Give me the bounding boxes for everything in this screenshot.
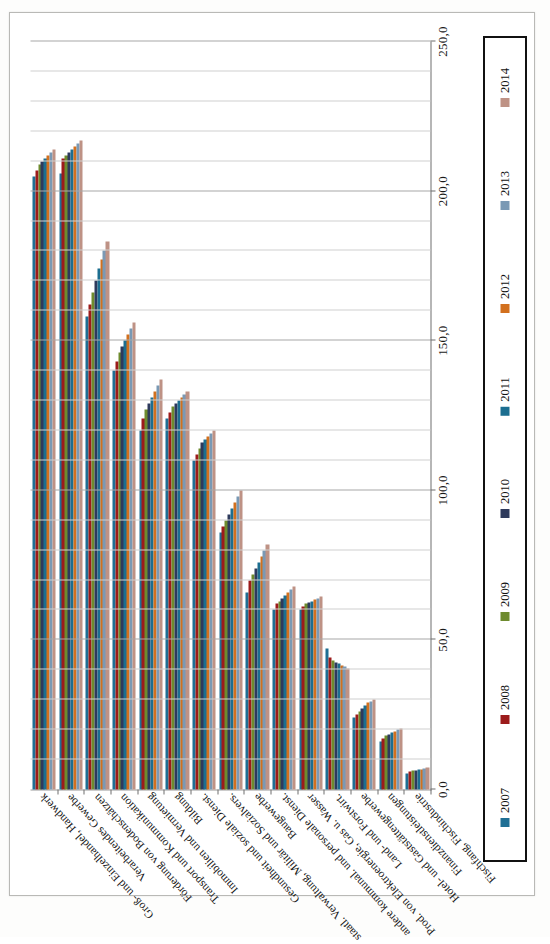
gridline: [31, 669, 431, 670]
bar-group: andere kommunal. und personale Dienst.: [271, 42, 298, 790]
gridline: [31, 639, 431, 640]
bar-group: Finanzdienstleistungen: [377, 42, 404, 790]
bar-group: staatl. Verwaltung, Militär und Sozialve…: [217, 42, 244, 790]
y-axis-tick: [324, 790, 325, 795]
legend-item-2010[interactable]: 2010: [498, 479, 513, 518]
gridline: [31, 220, 431, 221]
legend-item-2008[interactable]: 2008: [498, 685, 513, 724]
bar-group: Baugewerbe: [244, 42, 271, 790]
x-axis-tick-label: 150,0: [435, 326, 451, 356]
bar-2014: [132, 323, 135, 790]
gridline: [31, 489, 431, 490]
legend-item-2014[interactable]: 2014: [498, 68, 513, 107]
gridline: [31, 609, 431, 610]
bar-group: Land- und Forstwirt.: [324, 42, 351, 790]
legend-item-2012[interactable]: 2012: [498, 274, 513, 313]
gridline: [31, 429, 431, 430]
bar-group: Bildung: [164, 42, 191, 790]
legend-label: 2013: [498, 171, 513, 196]
y-axis-tick: [190, 790, 191, 795]
bar-2014: [186, 392, 189, 790]
gridline: [31, 699, 431, 700]
bar-rows: Groß- und Einzelhandel, HandwerkVerarbei…: [31, 42, 431, 790]
gridline: [31, 729, 431, 730]
x-axis-tick-label: 100,0: [435, 475, 451, 505]
x-axis-tick-label: 200,0: [435, 176, 451, 206]
bar-2014: [106, 242, 109, 790]
legend-swatch-icon: [501, 201, 510, 210]
legend-label: 2012: [498, 274, 513, 299]
gridline: [31, 759, 431, 760]
gridline: [31, 459, 431, 460]
bar-group: Förderung von Bodenschätzen: [84, 42, 111, 790]
legend-label: 2014: [498, 68, 513, 93]
bar-group: Fischfang, Fischindustrie: [404, 42, 431, 790]
y-axis-tick: [350, 790, 351, 795]
gridline: [31, 400, 431, 401]
bar-2014: [239, 490, 242, 789]
y-axis-tick: [430, 790, 431, 795]
gridline: [31, 100, 431, 101]
legend-label: 2009: [498, 582, 513, 607]
gridline: [31, 579, 431, 580]
x-axis-tick-label: 250,0: [435, 26, 451, 56]
gridline: [31, 280, 431, 281]
y-axis-tick: [217, 790, 218, 795]
bar-2014: [319, 597, 322, 790]
legend-swatch-icon: [501, 612, 510, 621]
gridline: [31, 190, 431, 191]
gridline: [31, 70, 431, 71]
legend-swatch-icon: [501, 304, 510, 313]
bar-chart: Groß- und Einzelhandel, HandwerkVerarbei…: [23, 29, 528, 909]
legend-label: 2011: [498, 377, 513, 402]
legend-swatch-icon: [501, 715, 510, 724]
bar-group: Gesundheit und soziale Dienst.: [191, 42, 218, 790]
bar-2014: [372, 700, 375, 790]
bar-2014: [79, 140, 82, 789]
bar-group: Verarbeitendes Gewerbe: [57, 42, 84, 790]
gridline: [31, 340, 431, 341]
bar-2014: [212, 430, 215, 789]
legend-label: 2008: [498, 685, 513, 710]
legend-item-2013[interactable]: 2013: [498, 171, 513, 210]
y-axis-tick: [270, 790, 271, 795]
gridline: [31, 250, 431, 251]
gridline: [31, 370, 431, 371]
legend-label: 2010: [498, 479, 513, 504]
legend-items: 20072008200920102011201220132014: [485, 38, 525, 860]
gridline: [31, 549, 431, 550]
legend-swatch-icon: [501, 98, 510, 107]
gridline: [31, 160, 431, 161]
gridline: [31, 41, 431, 42]
bar-2014: [266, 544, 269, 789]
bar-2014: [426, 768, 429, 790]
legend-swatch-icon: [501, 818, 510, 827]
y-axis-tick: [377, 790, 378, 795]
y-axis-tick: [137, 790, 138, 795]
bar-group: Transport und Kommunikation: [111, 42, 138, 790]
legend-label: 2007: [498, 788, 513, 813]
y-axis-tick: [297, 790, 298, 795]
y-axis-tick: [110, 790, 111, 795]
gridline: [31, 130, 431, 131]
chart-legend: 20072008200920102011201220132014: [483, 36, 527, 862]
y-axis-tick: [164, 790, 165, 795]
legend-item-2009[interactable]: 2009: [498, 582, 513, 621]
x-axis-tick-label: 50,0: [435, 628, 451, 652]
legend-item-2011[interactable]: 2011: [498, 377, 513, 416]
bar-group: Groß- und Einzelhandel, Handwerk: [31, 42, 58, 790]
y-axis-tick: [244, 790, 245, 795]
legend-swatch-icon: [501, 509, 510, 518]
bar-group: Prod. von Elektroenergie, Gas u. Wasser: [297, 42, 324, 790]
bar-2014: [52, 149, 55, 789]
gridline: [31, 310, 431, 311]
legend-item-2007[interactable]: 2007: [498, 788, 513, 827]
legend-swatch-icon: [501, 406, 510, 415]
bar-group: Immobilien und Vermietung: [137, 42, 164, 790]
y-axis-tick: [57, 790, 58, 795]
y-axis-tick: [404, 790, 405, 795]
plot-area: Groß- und Einzelhandel, HandwerkVerarbei…: [31, 42, 432, 791]
gridline: [31, 519, 431, 520]
